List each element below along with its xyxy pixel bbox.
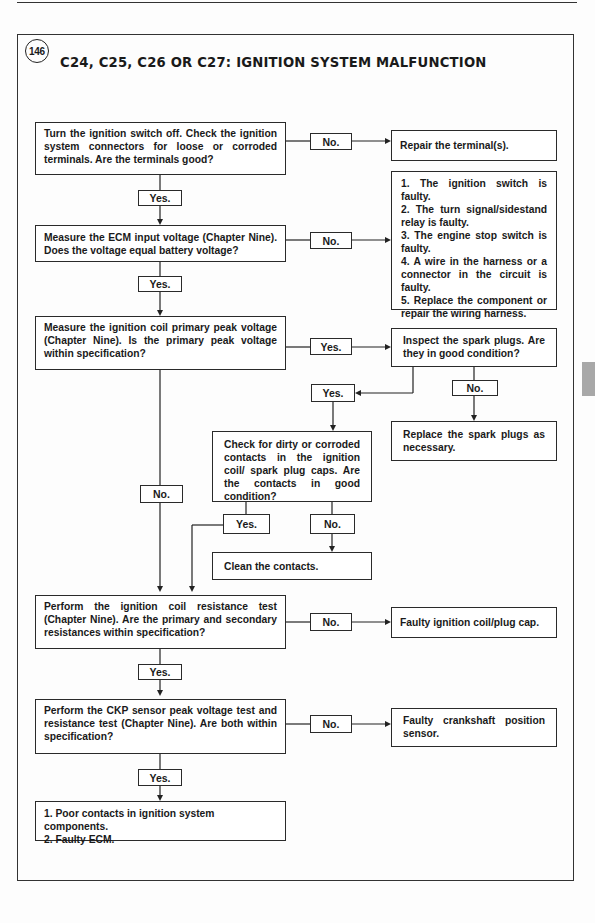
step-check-connectors: Turn the ignition switch off. Check the … [35, 122, 286, 175]
label-yes-connectors: Yes. [138, 190, 182, 206]
label-no-coil-resistance: No. [310, 613, 352, 631]
step-coil-primary-peak-voltage: Measure the ignition coil primary peak v… [35, 316, 286, 370]
step-coil-resistance-test: Perform the ignition coil resistance tes… [35, 595, 286, 649]
label-no-spark-plugs: No. [452, 380, 498, 396]
label-yes-ecm: Yes. [138, 276, 182, 292]
figure-title: C24, C25, C26 OR C27: IGNITION SYSTEM MA… [60, 55, 540, 70]
step-ecm-input-voltage: Measure the ECM input voltage (Chapter N… [35, 225, 286, 262]
label-no-ecm: No. [310, 232, 352, 249]
step-ckp-sensor-test-text: Perform the CKP sensor peak voltage test… [44, 705, 277, 742]
final-cause-1: 1. Poor contacts in ignition system comp… [44, 807, 277, 833]
result-ecm-causes: 1. The ignition switch is faulty. 2. The… [391, 171, 557, 310]
step-check-connectors-text: Turn the ignition switch off. Check the … [44, 128, 277, 165]
result-clean-contacts-text: Clean the contacts. [224, 561, 318, 572]
result-replace-spark-plugs-text: Replace the spark plugs as necessary. [403, 429, 545, 453]
ecm-cause-2: 2. The turn signal/sidestand relay is fa… [401, 203, 547, 229]
ecm-cause-4: 4. A wire in the harness or a connector … [401, 255, 547, 294]
step-check-contacts-text: Check for dirty or corroded contacts in … [224, 439, 360, 502]
result-faulty-coil-cap: Faulty ignition coil/plug cap. [391, 607, 557, 638]
result-faulty-ckp-sensor: Faulty crankshaft position sensor. [391, 708, 557, 747]
result-faulty-coil-cap-text: Faulty ignition coil/plug cap. [400, 617, 539, 628]
figure-number-badge: 146 [25, 39, 49, 63]
step-check-contacts: Check for dirty or corroded contacts in … [212, 431, 372, 502]
step-coil-primary-peak-voltage-text: Measure the ignition coil primary peak v… [44, 322, 277, 359]
label-no-ckp: No. [310, 715, 352, 733]
step-coil-resistance-test-text: Perform the ignition coil resistance tes… [44, 601, 277, 638]
step-ckp-sensor-test: Perform the CKP sensor peak voltage test… [35, 699, 286, 754]
label-yes-ckp: Yes. [138, 769, 182, 786]
result-replace-spark-plugs: Replace the spark plugs as necessary. [391, 421, 557, 461]
result-final-causes: 1. Poor contacts in ignition system comp… [35, 801, 286, 841]
result-repair-terminals: Repair the terminal(s). [391, 130, 557, 161]
step-inspect-spark-plugs-text: Inspect the spark plugs. Are they in goo… [403, 335, 545, 359]
label-yes-peak-voltage: Yes. [310, 338, 352, 355]
ecm-cause-5: 5. Replace the component or repair the w… [401, 294, 547, 320]
step-inspect-spark-plugs: Inspect the spark plugs. Are they in goo… [391, 328, 557, 367]
chapter-thumb-tab [582, 362, 595, 396]
label-yes-coil-resistance: Yes. [138, 664, 182, 680]
ecm-cause-3: 3. The engine stop switch is faulty. [401, 229, 547, 255]
final-cause-2: 2. Faulty ECM. [44, 833, 277, 846]
label-no-contacts: No. [310, 514, 355, 534]
label-yes-contacts: Yes. [223, 514, 270, 534]
result-clean-contacts: Clean the contacts. [212, 552, 372, 580]
label-yes-spark-plugs: Yes. [311, 384, 355, 402]
result-faulty-ckp-sensor-text: Faulty crankshaft position sensor. [403, 715, 545, 739]
ecm-cause-1: 1. The ignition switch is faulty. [401, 177, 547, 203]
label-no-connectors: No. [310, 133, 352, 150]
label-no-peak-voltage: No. [140, 485, 183, 503]
result-repair-terminals-text: Repair the terminal(s). [400, 140, 509, 151]
page-top-rule [17, 2, 577, 3]
step-ecm-input-voltage-text: Measure the ECM input voltage (Chapter N… [44, 232, 277, 256]
